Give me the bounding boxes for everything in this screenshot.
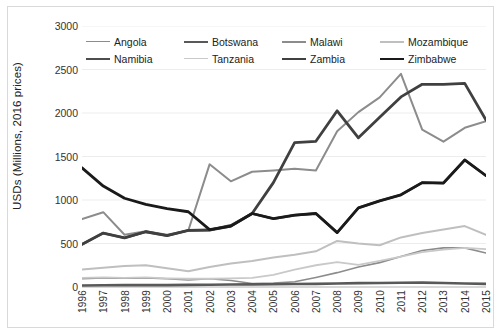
x-tick-label: 2011 — [396, 290, 407, 312]
x-tick-label: 2002 — [205, 290, 216, 313]
legend-swatch-malawi — [282, 41, 306, 43]
y-axis-title: USDs (Millions, 2016 prices) — [11, 36, 23, 236]
legend-swatch-zambia — [282, 58, 306, 60]
legend-swatch-tanzania — [184, 58, 208, 59]
legend-label: Malawi — [310, 36, 343, 48]
x-tick-label: 2005 — [268, 290, 279, 313]
x-tick-label: 2013 — [438, 290, 449, 313]
y-tick-label: 2000 — [38, 107, 78, 119]
x-tick-label: 2010 — [375, 290, 386, 313]
x-tick-label: 2009 — [353, 290, 364, 313]
x-tick-label: 2015 — [481, 290, 492, 313]
x-tick-label: 1999 — [141, 290, 152, 313]
y-tick-label: 1500 — [38, 151, 78, 163]
legend-label: Zimbabwe — [408, 53, 456, 65]
chart-figure: USDs (Millions, 2016 prices) 05001000150… — [0, 0, 501, 335]
legend-swatch-angola — [86, 41, 110, 42]
x-tick-label: 2012 — [417, 290, 428, 313]
legend-label: Mozambique — [408, 36, 468, 48]
x-tick-label: 2014 — [460, 290, 471, 313]
legend-label: Zambia — [310, 53, 345, 65]
y-tick-label: 500 — [38, 238, 78, 250]
legend-swatch-zimbabwe — [380, 58, 404, 60]
series-line-tanzania — [82, 248, 486, 279]
legend-row: AngolaBotswanaMalawiMozambique — [86, 33, 478, 50]
legend-item-malawi[interactable]: Malawi — [282, 33, 380, 50]
y-tick-label: 0 — [38, 281, 78, 293]
series-line-zimbabwe — [82, 160, 486, 233]
legend-swatch-botswana — [184, 41, 208, 43]
x-tick-label: 2004 — [247, 290, 258, 313]
legend-swatch-mozambique — [380, 41, 404, 43]
legend-item-zambia[interactable]: Zambia — [282, 50, 380, 67]
legend-item-namibia[interactable]: Namibia — [86, 50, 184, 67]
x-tick-label: 2006 — [290, 290, 301, 313]
x-tick-label: 2007 — [311, 290, 322, 313]
x-tick-label: 1997 — [98, 290, 109, 313]
legend-label: Botswana — [212, 36, 258, 48]
y-axis-tick-labels: 050010001500200025003000 — [36, 26, 78, 287]
legend-label: Tanzania — [212, 53, 254, 65]
legend-item-botswana[interactable]: Botswana — [184, 33, 282, 50]
legend-item-tanzania[interactable]: Tanzania — [184, 50, 282, 67]
x-tick-label: 2001 — [183, 290, 194, 313]
chart-legend: AngolaBotswanaMalawiMozambiqueNamibiaTan… — [86, 33, 478, 67]
legend-item-zimbabwe[interactable]: Zimbabwe — [380, 50, 478, 67]
x-tick-label: 2003 — [226, 290, 237, 313]
series-line-zambia — [82, 83, 486, 244]
x-tick-label: 1998 — [120, 290, 131, 313]
legend-row: NamibiaTanzaniaZambiaZimbabwe — [86, 50, 478, 67]
legend-item-mozambique[interactable]: Mozambique — [380, 33, 478, 50]
series-line-malawi — [82, 74, 486, 235]
x-tick-label: 2000 — [162, 290, 173, 313]
x-axis-tick-labels: 1996199719981999200020012002200320042005… — [82, 290, 486, 334]
legend-item-angola[interactable]: Angola — [86, 33, 184, 50]
y-tick-label: 1000 — [38, 194, 78, 206]
series-line-botswana — [82, 283, 486, 286]
y-tick-label: 3000 — [38, 20, 78, 32]
legend-swatch-namibia — [86, 58, 110, 60]
legend-label: Angola — [114, 36, 147, 48]
legend-label: Namibia — [114, 53, 153, 65]
x-tick-label: 1996 — [77, 290, 88, 313]
x-tick-label: 2008 — [332, 290, 343, 313]
y-tick-label: 2500 — [38, 64, 78, 76]
